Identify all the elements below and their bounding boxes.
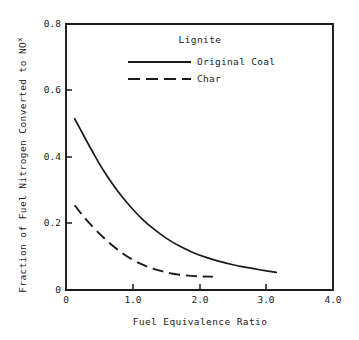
y-axis-title-group: Fraction of Fuel Nitrogen Converted to N…	[16, 37, 28, 293]
series-line-char	[75, 205, 213, 276]
y-tick-label-0: 0	[55, 284, 61, 295]
x-tick-label-2.0: 2.0	[191, 294, 208, 305]
y-axis-title: Fraction of Fuel Nitrogen Converted to N…	[16, 37, 28, 293]
x-axis-title: Fuel Equivalence Ratio	[133, 316, 268, 327]
chart-figure: 0.8 0.6 0.4 0.2 0 0 1.0 2.0 3.0 4.0 Fuel…	[0, 0, 359, 340]
x-tick-label-4.0: 4.0	[324, 294, 341, 305]
x-tick-label-3.0: 3.0	[257, 294, 274, 305]
series-line-original-coal	[75, 119, 277, 273]
y-tick-label-0.4: 0.4	[44, 151, 61, 162]
legend-label-original-coal: Original Coal	[197, 56, 275, 67]
y-tick-label-0.8: 0.8	[44, 18, 61, 29]
legend-label-char: Char	[197, 73, 221, 84]
legend-title: Lignite	[179, 34, 222, 45]
y-tick-labels: 0.8 0.6 0.4 0.2 0	[44, 18, 61, 295]
line-chart-svg: 0.8 0.6 0.4 0.2 0 0 1.0 2.0 3.0 4.0 Fuel…	[0, 0, 359, 340]
y-tick-label-0.2: 0.2	[44, 217, 61, 228]
y-axis-title-main: Fraction of Fuel Nitrogen Converted to N…	[17, 42, 28, 293]
x-tick-label-0: 0	[63, 294, 69, 305]
y-tick-label-0.6: 0.6	[44, 84, 61, 95]
y-axis-title-subscript: x	[16, 37, 24, 42]
legend: Lignite Original Coal Char	[128, 34, 275, 84]
x-tick-label-1.0: 1.0	[124, 294, 141, 305]
x-tick-labels: 0 1.0 2.0 3.0 4.0	[63, 294, 342, 305]
